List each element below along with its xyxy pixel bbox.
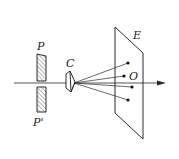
axis-arrow-icon <box>157 81 166 86</box>
label-e: E <box>132 29 141 42</box>
label-o: O <box>129 70 138 83</box>
diagram: P P' C E O <box>0 0 179 159</box>
label-c: C <box>66 57 75 70</box>
plate-p-upper <box>37 54 46 81</box>
label-p: P <box>36 40 45 53</box>
label-p-prime: P' <box>32 116 43 129</box>
plate-p-lower <box>37 87 46 112</box>
